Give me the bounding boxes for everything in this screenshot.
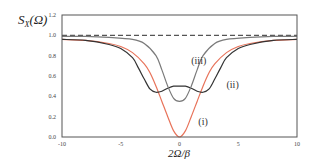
y-tick-label: 0.4 xyxy=(49,93,57,99)
y-tick-labels: 0.00.20.40.60.81.01.2 xyxy=(49,12,57,140)
curve-label: (ii) xyxy=(227,79,239,91)
y-tick-label: 0.6 xyxy=(49,73,57,79)
curves xyxy=(62,36,297,137)
x-tick-label: -10 xyxy=(58,141,66,147)
x-axis-title: 2Ω/β xyxy=(168,147,191,159)
plot-frame xyxy=(62,15,297,137)
curve-iii xyxy=(62,36,297,101)
curve-ii xyxy=(62,39,297,92)
y-tick-label: 0.2 xyxy=(49,114,57,120)
svg-text:SX(Ω): SX(Ω) xyxy=(18,12,47,29)
x-tick-label: -5 xyxy=(118,141,123,147)
y-tick-label: 1.2 xyxy=(49,12,57,18)
x-tick-label: 10 xyxy=(294,141,300,147)
y-axis-title: SX(Ω) xyxy=(18,12,47,29)
chart: SX(Ω) 0.00.20.40.60.81.01.2 -10-50510 (i… xyxy=(0,0,315,163)
curve-label: (iii) xyxy=(191,55,206,67)
y-axis-title-arg: (Ω) xyxy=(29,12,47,27)
y-tick-label: 1.0 xyxy=(49,32,57,38)
plot-area: (i)(ii)(iii) xyxy=(62,35,297,137)
y-tick-label: 0.8 xyxy=(49,53,57,59)
curve-i xyxy=(62,39,297,137)
x-tick-label: 5 xyxy=(237,141,240,147)
y-tick-label: 0.0 xyxy=(49,134,57,140)
curve-label: (i) xyxy=(198,116,207,128)
